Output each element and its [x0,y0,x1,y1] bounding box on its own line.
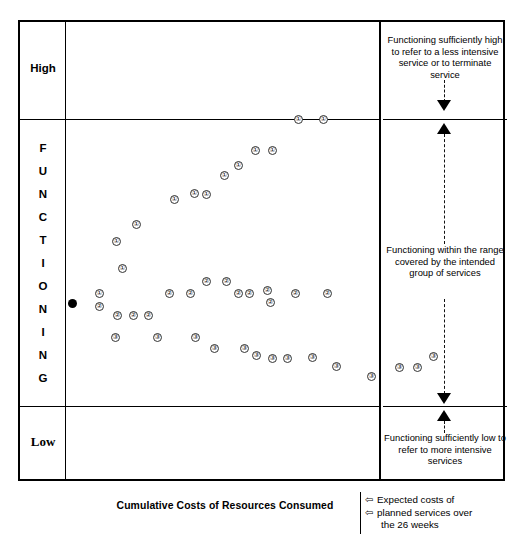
legend-line-3: the 26 weeks [381,519,439,532]
data-point-marker-3-right-panel: ③ [429,352,438,361]
data-point-marker-1: ① [234,161,243,170]
scatter-plot-area [66,22,381,479]
data-point-marker-1: ① [294,115,303,124]
data-point-marker-1: ① [118,264,127,273]
chart-frame: High F U N C T I O N I N G Low Functioni… [18,20,505,481]
data-point-marker-3: ③ [191,333,200,342]
right-annotation-panel: Functioning sufficiently high to refer t… [383,22,507,479]
data-point-marker-3: ③ [240,344,249,353]
y-axis-title-letter: F [39,137,46,160]
data-point-marker-1: ① [190,189,199,198]
arrow-head-down-lower [437,393,451,404]
annotation-high-functioning: Functioning sufficiently high to refer t… [384,34,506,80]
legend-line-2: planned services over [377,507,472,520]
data-point-marker-2: ② [186,289,195,298]
arrow-shaft-low [444,421,445,433]
data-point-marker-3: ③ [111,333,120,342]
y-axis-title-letter: C [39,206,47,229]
left-arrow-icon: ⇦ [365,494,377,507]
y-axis-title-letter: I [41,321,44,344]
data-point-marker-1: ① [220,171,229,180]
y-axis-title-letter: G [39,367,48,390]
arrow-head-up-lower [437,410,451,421]
data-point-marker-3: ③ [332,362,341,371]
legend-row: the 26 weeks [365,519,515,532]
data-point-marker-3: ③ [308,353,317,362]
data-point-marker-2: ② [263,286,272,295]
y-axis-title-letter: O [39,275,48,298]
data-point-marker-2: ② [245,289,254,298]
x-axis-title: Cumulative Costs of Resources Consumed [100,500,350,511]
y-axis-title-letter: N [39,298,47,321]
annotation-low-functioning: Functioning sufficiently low to refer to… [384,432,506,467]
data-point-marker-2: ② [202,277,211,286]
arrow-shaft-upper [444,80,445,102]
legend-separator-rule [360,492,361,534]
y-axis-high-label: High [20,62,66,74]
data-point-marker-3: ③ [367,372,376,381]
data-point-marker-2: ② [113,311,122,320]
data-point-marker-3: ③ [268,354,277,363]
annotation-intended-range: Functioning within the range covered by … [384,244,506,279]
y-axis-title-letter: U [39,160,47,183]
data-point-marker-3-right-panel: ③ [395,363,404,372]
arrow-head-up-upper [437,123,451,134]
data-point-marker-2: ② [266,298,275,307]
left-arrow-icon: ⇦ [365,507,377,520]
data-point-marker-1: ① [95,289,104,298]
data-point-marker-1: ① [319,115,328,124]
data-point-marker-2: ② [291,289,300,298]
y-band-divider-high [20,119,65,120]
data-point-marker-3: ③ [153,333,162,342]
y-axis-low-label: Low [20,434,66,450]
arrow-shaft-mid-lower [444,299,445,394]
legend: ⇦ Expected costs of ⇦ planned services o… [365,494,515,532]
legend-row: ⇦ Expected costs of [365,494,515,507]
data-point-marker-2: ② [129,311,138,320]
y-axis-title-letter: N [39,344,47,367]
data-point-marker-1: ① [112,237,121,246]
data-point-marker-3: ③ [210,344,219,353]
y-axis-title: F U N C T I O N I N G [20,123,66,404]
data-point-marker-2: ② [144,311,153,320]
data-point-marker-1: ① [202,190,211,199]
data-point-marker-1: ① [251,146,260,155]
data-point-marker-2: ② [222,277,231,286]
arrow-shaft-mid-upper [444,134,445,244]
y-axis-title-letter: T [39,229,46,252]
data-point-marker-2: ② [323,289,332,298]
data-point-marker-3: ③ [283,354,292,363]
data-point-marker-2: ② [165,289,174,298]
y-axis-title-letter: I [41,252,44,275]
data-point-marker-2: ② [95,302,104,311]
data-point-marker-1: ① [170,195,179,204]
legend-row: ⇦ planned services over [365,507,515,520]
data-point-marker-3-right-panel: ③ [413,363,422,372]
data-point-marker-1: ① [268,146,277,155]
y-axis-low-cell: Low [20,406,66,481]
y-axis-title-letter: N [39,183,47,206]
y-axis-label-column: High F U N C T I O N I N G Low [20,22,66,479]
legend-line-1: Expected costs of [377,494,454,507]
origin-marker [68,299,77,308]
data-point-marker-2: ② [234,289,243,298]
data-point-marker-3: ③ [252,351,261,360]
arrow-head-down-upper [437,100,451,111]
data-point-marker-1: ① [132,220,141,229]
